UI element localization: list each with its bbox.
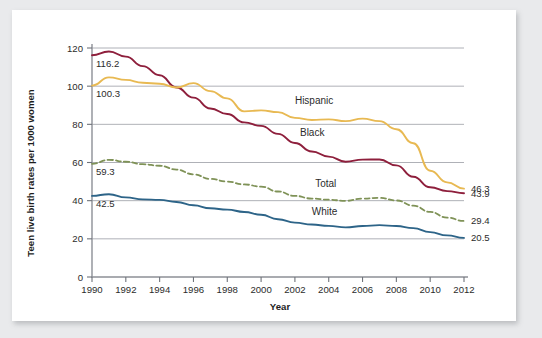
start-value-labels: 116.2100.359.342.5 — [96, 58, 120, 210]
x-tick-label: 1998 — [217, 284, 238, 295]
teen-birth-rate-line-chart: 020406080100120 199019921994199619982000… — [12, 10, 516, 321]
series-label-white: White — [312, 206, 338, 217]
y-tick-label: 80 — [72, 119, 83, 130]
start-value-label-white: 42.5 — [96, 198, 115, 209]
x-axis-title: Year — [270, 301, 291, 312]
y-axis-title: Teen live birth rates per 1000 women — [25, 89, 36, 256]
series-label-total: Total — [315, 178, 336, 189]
y-tick-label: 0 — [78, 272, 83, 283]
start-value-label-total: 59.3 — [96, 166, 115, 177]
axis-lines — [92, 44, 468, 277]
y-tick-label: 100 — [67, 81, 83, 92]
x-tick-label: 2004 — [318, 284, 340, 295]
x-tick-label: 2006 — [352, 284, 373, 295]
start-value-label-hispanic: 100.3 — [96, 88, 120, 99]
y-tick-label: 120 — [67, 43, 83, 54]
end-value-label-white: 20.5 — [471, 232, 490, 243]
series-label-hispanic: Hispanic — [295, 95, 333, 106]
series-label-black: Black — [300, 127, 325, 138]
x-tick-label: 2012 — [453, 284, 474, 295]
chart-plot-area: 020406080100120 199019921994199619982000… — [12, 10, 516, 321]
x-tick-label: 2000 — [250, 284, 271, 295]
start-value-label-black: 116.2 — [96, 58, 119, 69]
axes — [92, 44, 468, 277]
x-axis-ticks: 1990199219941996199820002002200420062008… — [81, 277, 474, 295]
y-tick-label: 60 — [72, 157, 83, 168]
x-tick-label: 1992 — [115, 284, 136, 295]
end-value-label-black: 43.9 — [471, 188, 490, 199]
figure-card: 020406080100120 199019921994199619982000… — [12, 10, 516, 321]
y-tick-label: 40 — [72, 195, 83, 206]
gridlines — [92, 48, 464, 239]
series-line-black — [92, 51, 464, 193]
x-tick-label: 1996 — [183, 284, 204, 295]
end-value-labels: 46.343.929.420.5 — [471, 183, 490, 243]
x-tick-label: 1990 — [81, 284, 102, 295]
end-value-label-total: 29.4 — [471, 215, 490, 226]
y-axis-ticks: 020406080100120 — [67, 43, 92, 283]
x-tick-label: 2008 — [386, 284, 407, 295]
series-line-total — [92, 160, 464, 221]
data-series — [92, 51, 464, 237]
x-tick-label: 2002 — [284, 284, 305, 295]
y-tick-label: 20 — [72, 233, 83, 244]
x-tick-label: 1994 — [149, 284, 171, 295]
x-tick-label: 2010 — [420, 284, 441, 295]
